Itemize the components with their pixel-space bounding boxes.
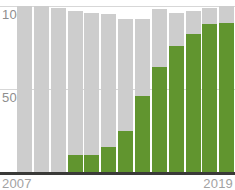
bar-segment-value — [186, 34, 201, 172]
x-axis-label-end: 2019 — [203, 177, 233, 190]
bar-segment-value — [84, 155, 99, 172]
bar-segment-value — [152, 67, 167, 172]
bar-chart: 100 50 2007 2019 — [0, 0, 235, 190]
bar-segment-remainder — [68, 11, 83, 172]
bar-segment-value — [68, 155, 83, 172]
bar-segment-value — [169, 46, 184, 172]
bar-segment-value — [219, 23, 234, 172]
bar-segment-value — [202, 24, 217, 172]
bar-segment-value — [118, 131, 133, 173]
bar-segment-remainder — [17, 6, 32, 172]
bar-segment-value — [101, 147, 116, 172]
x-axis-label-start: 2007 — [2, 177, 32, 190]
x-axis-line — [0, 172, 235, 175]
plot-area — [0, 0, 235, 172]
bar-segment-remainder — [84, 13, 99, 172]
bar-segment-value — [135, 96, 150, 172]
bar-segment-remainder — [34, 6, 49, 172]
bar-segment-remainder — [51, 8, 66, 172]
